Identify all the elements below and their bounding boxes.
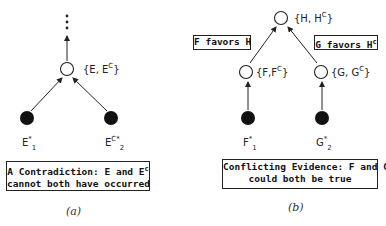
hypothesis-node-e <box>61 63 74 76</box>
box-line-2: could both be true <box>223 173 377 185</box>
label-sub: 2 <box>120 144 124 152</box>
label-f-star-1: F*1 <box>243 136 257 152</box>
label-f-fc: {F,FC} <box>256 66 288 78</box>
diagram-canvas <box>0 0 386 226</box>
label-text: {E, E <box>83 64 108 75</box>
label-g-star-2: G*2 <box>316 136 332 152</box>
arrow-e2 <box>73 78 107 111</box>
evidence-node-f1 <box>241 111 255 125</box>
box-line-2: cannot both have occurred <box>7 178 149 190</box>
arrow-g-to-h <box>288 27 317 63</box>
label-e-star-1: E*1 <box>22 136 36 152</box>
caption-b: (b) <box>288 201 304 214</box>
ellipsis-dot <box>66 21 69 24</box>
label-text: G <box>316 137 324 148</box>
label-text: } <box>327 13 333 24</box>
box-text: G favors H <box>315 39 372 50</box>
box-line-1: A Contradiction: E and Ec <box>7 163 149 178</box>
label-sub: 1 <box>252 144 256 152</box>
box-sup: c <box>372 38 376 46</box>
label-text: {F,F <box>256 67 277 78</box>
ellipsis-dot <box>66 27 69 30</box>
label-e-ec: {E, EC} <box>83 63 120 75</box>
arrow-e1 <box>31 78 62 111</box>
node-g <box>315 66 328 79</box>
ellipsis-dot <box>66 15 69 18</box>
label-text: } <box>364 67 370 78</box>
label-sub: 2 <box>327 144 331 152</box>
evidence-node-e2 <box>104 111 118 125</box>
label-text: } <box>282 67 288 78</box>
box-text: A Contradiction: E and E <box>7 166 144 177</box>
box-sup: c <box>145 165 149 173</box>
label-sup: * <box>249 135 253 143</box>
node-f <box>240 66 253 79</box>
label-g-gc: {G, GC} <box>331 66 370 78</box>
label-ec-star-2: EC*2 <box>105 136 124 152</box>
evidence-node-e1 <box>20 111 34 125</box>
label-h-hc: {H, HC} <box>294 12 333 24</box>
box-line-1: Conflicting Evidence: F and G <box>223 161 377 173</box>
g-favors-hc-box: G favors Hc <box>314 35 378 50</box>
label-sup: * <box>28 135 32 143</box>
caption-a: (a) <box>66 205 81 218</box>
arrow-f-to-h <box>250 27 276 63</box>
label-sup: * <box>324 135 328 143</box>
label-text: {H, H <box>294 13 322 24</box>
contradiction-box: A Contradiction: E and Ec cannot both ha… <box>6 161 150 191</box>
label-text: } <box>113 64 119 75</box>
label-sup: C* <box>111 135 119 143</box>
evidence-node-g2 <box>315 111 329 125</box>
label-sub: 1 <box>32 144 36 152</box>
hypothesis-node-h <box>275 12 288 25</box>
f-favors-h-box: F favors H <box>193 35 251 50</box>
label-text: {G, G <box>331 67 359 78</box>
conflicting-evidence-box: Conflicting Evidence: F and G could both… <box>222 159 378 189</box>
